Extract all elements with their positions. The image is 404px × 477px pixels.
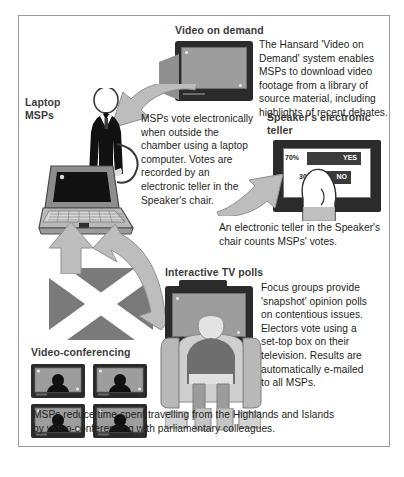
screen-indicator-dot [239, 84, 242, 87]
video-conference-tile [93, 364, 147, 398]
body-speakers-electronic-teller: An electronic teller in the Speaker's ch… [219, 221, 391, 248]
body-video-on-demand: The Hansard 'Video on Demand' system ena… [259, 38, 391, 120]
infographic-poster: Video on demand The Hansard 'Video on De… [18, 15, 390, 447]
heading-video-conferencing: Video-conferencing [31, 346, 131, 359]
heading-interactive-tv-polls: Interactive TV polls [165, 266, 263, 279]
heading-laptop-msps: Laptop MSPs [25, 96, 61, 121]
pointing-hand-icon [291, 159, 347, 221]
arrow-laptop-to-teller [215, 174, 285, 216]
heading-video-on-demand: Video on demand [175, 24, 264, 37]
footer-caption: MSPs reduce time spent travelling from t… [33, 408, 381, 435]
seated-viewer-figure [159, 312, 263, 420]
body-interactive-tv-polls: Focus groups provide 'snapshot' opinion … [261, 281, 391, 390]
screen-indicator-dot [176, 297, 179, 300]
screen-indicator-dot [185, 51, 188, 54]
infographic-canvas: Video on demand The Hansard 'Video on De… [19, 16, 391, 448]
monitor-screen [181, 47, 247, 89]
video-conference-tile [31, 364, 85, 398]
heading-speakers-electronic-teller: Speaker's electronic teller [267, 111, 371, 136]
tv-top-bar [179, 280, 227, 288]
